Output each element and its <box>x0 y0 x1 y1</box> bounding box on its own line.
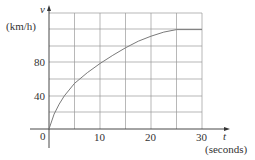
y-tick-80: 80 <box>34 56 46 68</box>
velocity-time-chart: v (km/h) 80 40 0 10 20 30 t (seconds) <box>0 0 255 160</box>
y-axis-arrow-icon <box>47 5 51 11</box>
x-tick-30: 30 <box>196 131 208 143</box>
x-axis-unit: (seconds) <box>205 143 247 156</box>
x-tick-20: 20 <box>145 131 157 143</box>
origin-label: 0 <box>40 130 46 142</box>
grid <box>49 13 202 129</box>
x-tick-10: 10 <box>94 131 106 143</box>
y-axis-symbol: v <box>40 3 45 15</box>
x-axis-symbol: t <box>223 130 227 142</box>
y-tick-40: 40 <box>34 90 46 102</box>
y-axis-unit: (km/h) <box>6 20 36 33</box>
